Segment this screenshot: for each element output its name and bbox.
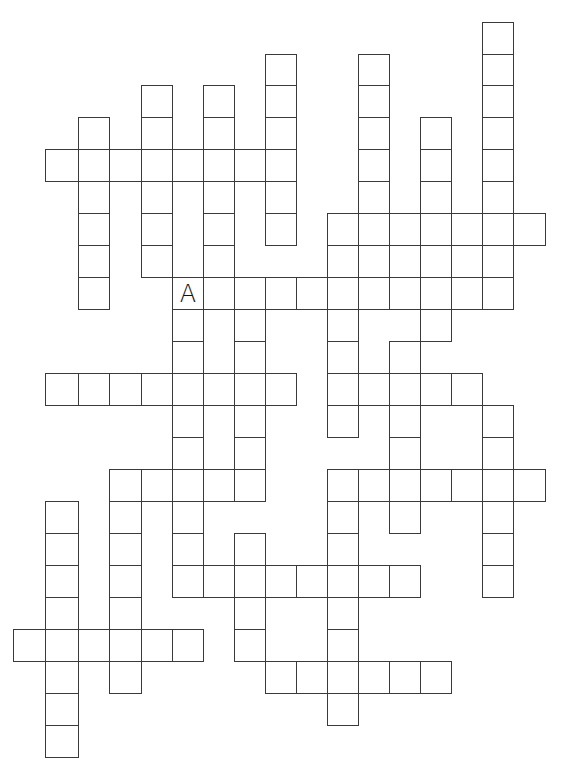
- crossword-cell[interactable]: [265, 117, 297, 150]
- crossword-cell[interactable]: [389, 661, 421, 694]
- crossword-cell[interactable]: [78, 277, 110, 310]
- crossword-cell[interactable]: [109, 533, 142, 566]
- crossword-cell[interactable]: [203, 85, 235, 118]
- crossword-cell[interactable]: [78, 117, 110, 150]
- crossword-cell[interactable]: [482, 565, 514, 598]
- crossword-cell[interactable]: [172, 341, 204, 374]
- crossword-cell[interactable]: [296, 661, 328, 694]
- crossword-cell[interactable]: [451, 213, 483, 246]
- crossword-cell[interactable]: [265, 54, 297, 86]
- crossword-cell[interactable]: [389, 373, 421, 406]
- crossword-cell[interactable]: [389, 469, 421, 502]
- crossword-cell[interactable]: [234, 373, 266, 406]
- crossword-cell[interactable]: [451, 373, 483, 406]
- crossword-cell[interactable]: [109, 149, 142, 182]
- crossword-cell[interactable]: [172, 469, 204, 502]
- crossword-cell[interactable]: [78, 181, 110, 214]
- crossword-cell[interactable]: [296, 565, 328, 598]
- crossword-cell[interactable]: [389, 565, 421, 598]
- crossword-cell[interactable]: [141, 373, 173, 406]
- crossword-cell[interactable]: [78, 213, 110, 246]
- crossword-cell[interactable]: [327, 501, 359, 534]
- crossword-cell[interactable]: [327, 405, 359, 438]
- crossword-cell[interactable]: [265, 277, 297, 310]
- crossword-cell[interactable]: [45, 149, 79, 182]
- crossword-cell[interactable]: [389, 277, 421, 310]
- crossword-cell[interactable]: [234, 149, 266, 182]
- crossword-cell[interactable]: [45, 661, 79, 694]
- crossword-cell[interactable]: [358, 85, 390, 118]
- crossword-cell[interactable]: [78, 149, 110, 182]
- crossword-cell[interactable]: [327, 469, 359, 502]
- crossword-cell[interactable]: [172, 309, 204, 342]
- crossword-cell[interactable]: [327, 565, 359, 598]
- crossword-cell[interactable]: [203, 469, 235, 502]
- crossword-cell[interactable]: [141, 213, 173, 246]
- crossword-cell[interactable]: [203, 373, 235, 406]
- crossword-cell[interactable]: [45, 533, 79, 566]
- crossword-cell[interactable]: [172, 405, 204, 438]
- crossword-cell[interactable]: [172, 373, 204, 406]
- crossword-cell[interactable]: [327, 245, 359, 278]
- crossword-cell[interactable]: [389, 245, 421, 278]
- crossword-cell[interactable]: [482, 85, 514, 118]
- crossword-cell[interactable]: [420, 373, 452, 406]
- crossword-cell[interactable]: [172, 501, 204, 534]
- crossword-cell[interactable]: [265, 213, 297, 246]
- crossword-cell[interactable]: [172, 149, 204, 182]
- crossword-cell[interactable]: [141, 469, 173, 502]
- crossword-cell[interactable]: [513, 469, 546, 502]
- crossword-cell[interactable]: [358, 149, 390, 182]
- crossword-cell[interactable]: A: [172, 277, 204, 310]
- crossword-cell[interactable]: [358, 245, 390, 278]
- crossword-cell[interactable]: [420, 245, 452, 278]
- crossword-cell[interactable]: [482, 469, 514, 502]
- crossword-cell[interactable]: [482, 149, 514, 182]
- crossword-cell[interactable]: [327, 277, 359, 310]
- crossword-cell[interactable]: [482, 117, 514, 150]
- crossword-cell[interactable]: [482, 405, 514, 438]
- crossword-cell[interactable]: [389, 213, 421, 246]
- crossword-cell[interactable]: [109, 661, 142, 694]
- crossword-cell[interactable]: [141, 629, 173, 662]
- crossword-cell[interactable]: [327, 693, 359, 726]
- crossword-cell[interactable]: [45, 501, 79, 534]
- crossword-cell[interactable]: [172, 565, 204, 598]
- crossword-cell[interactable]: [172, 533, 204, 566]
- crossword-cell[interactable]: [482, 277, 514, 310]
- crossword-cell[interactable]: [265, 565, 297, 598]
- crossword-cell[interactable]: [358, 277, 390, 310]
- crossword-cell[interactable]: [234, 309, 266, 342]
- crossword-cell[interactable]: [141, 149, 173, 182]
- crossword-cell[interactable]: [141, 117, 173, 150]
- crossword-cell[interactable]: [358, 565, 390, 598]
- crossword-cell[interactable]: [203, 245, 235, 278]
- crossword-cell[interactable]: [482, 54, 514, 86]
- crossword-cell[interactable]: [327, 341, 359, 374]
- crossword-cell[interactable]: [109, 469, 142, 502]
- crossword-cell[interactable]: [45, 725, 79, 758]
- crossword-cell[interactable]: [265, 373, 297, 406]
- crossword-cell[interactable]: [109, 629, 142, 662]
- crossword-cell[interactable]: [420, 277, 452, 310]
- crossword-cell[interactable]: [45, 693, 79, 726]
- crossword-cell[interactable]: [451, 245, 483, 278]
- crossword-cell[interactable]: [327, 213, 359, 246]
- crossword-cell[interactable]: [234, 469, 266, 502]
- crossword-cell[interactable]: [234, 341, 266, 374]
- crossword-cell[interactable]: [78, 245, 110, 278]
- crossword-cell[interactable]: [45, 565, 79, 598]
- crossword-cell[interactable]: [265, 661, 297, 694]
- crossword-cell[interactable]: [482, 437, 514, 470]
- crossword-cell[interactable]: [482, 533, 514, 566]
- crossword-cell[interactable]: [234, 277, 266, 310]
- crossword-cell[interactable]: [78, 629, 110, 662]
- crossword-cell[interactable]: [482, 213, 514, 246]
- crossword-cell[interactable]: [141, 181, 173, 214]
- crossword-cell[interactable]: [389, 501, 421, 534]
- crossword-cell[interactable]: [358, 661, 390, 694]
- crossword-cell[interactable]: [203, 213, 235, 246]
- crossword-cell[interactable]: [234, 597, 266, 630]
- crossword-cell[interactable]: [265, 149, 297, 182]
- crossword-cell[interactable]: [358, 469, 390, 502]
